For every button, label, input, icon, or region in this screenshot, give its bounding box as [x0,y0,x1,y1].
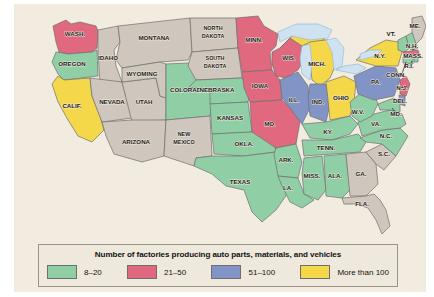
label-arkansas: ARK. [278,156,293,163]
label-vermont: VT. [387,30,396,37]
label-nebraska: NEBRASKA [199,86,235,93]
label-new-mexico-2: MEXICO [173,139,194,145]
label-nevada: NEVADA [99,98,125,105]
map-legend: Number of factories producing auto parts… [38,244,398,287]
label-texas: TEXAS [230,178,251,185]
state-washington[interactable] [53,20,98,54]
label-wyoming: WYOMING [127,70,158,77]
label-florida: FLA. [355,200,369,207]
label-missouri: MO. [264,120,276,127]
label-maryland: MD. [390,110,402,117]
label-arizona: ARIZONA [122,138,151,145]
label-connecticut: CONN. [386,71,406,78]
label-north-dakota-2: DAKOTA [202,33,225,39]
legend-swatch-0 [47,265,77,279]
label-kansas: KANSAS [217,114,243,121]
label-new-hampshire: N.H. [406,42,419,49]
legend-title: Number of factories producing auto parts… [39,250,397,259]
label-oregon: OREGON [58,60,86,67]
label-oklahoma: OKLA. [234,140,254,147]
label-utah: UTAH [136,98,153,105]
label-georgia: GA. [355,170,366,177]
label-west-virginia: W.V. [352,108,365,115]
label-new-jersey: N.J. [396,84,408,91]
legend-label-0: 8–20 [84,268,102,277]
label-montana: MONTANA [138,34,170,41]
label-delaware: DEL. [393,97,407,104]
map-figure: WASH. OREGON CALIF. IDAHO NEVADA MONTANA… [0,0,434,297]
label-north-carolina: N.C. [380,132,393,139]
label-wisconsin: WIS. [282,54,296,61]
legend-swatch-3 [300,265,330,279]
legend-label-3: More than 100 [337,268,389,277]
label-south-dakota-1: SOUTH [206,55,225,61]
label-california: CALIF. [62,102,82,109]
label-illinois: ILL. [289,96,300,103]
label-louisiana: LA. [283,184,293,191]
label-ohio: OHIO [333,94,349,101]
label-iowa: IOWA [252,82,269,89]
label-michigan: MICH. [308,60,326,67]
label-maine: ME. [409,22,420,29]
label-new-york: N.Y. [374,52,386,59]
label-washington: WASH. [65,30,86,37]
legend-items: 8–20 21–50 51–100 More than 100 [39,265,397,279]
label-tennessee: TENN. [317,144,336,151]
legend-label-1: 21–50 [164,268,186,277]
legend-label-2: 51–100 [248,268,275,277]
label-indiana: IND. [312,98,325,105]
label-massachusetts: MASS. [403,52,423,59]
label-virginia: VA. [371,120,381,127]
legend-item-0[interactable]: 8–20 [47,265,102,279]
label-pennsylvania: PA. [371,78,381,85]
label-minnesota: MINN. [245,36,263,43]
label-south-dakota-2: DAKOTA [204,63,227,69]
label-idaho: IDAHO [98,54,118,61]
us-choropleth-map[interactable]: WASH. OREGON CALIF. IDAHO NEVADA MONTANA… [14,4,426,244]
state-montana[interactable] [116,18,192,68]
label-north-dakota-1: NORTH [203,25,222,31]
legend-swatch-2 [211,265,241,279]
label-south-carolina: S.C. [378,150,390,157]
label-new-mexico-1: NEW [178,131,191,137]
label-kentucky: KY. [323,128,333,135]
legend-item-2[interactable]: 51–100 [211,265,275,279]
label-mississippi: MISS. [304,172,321,179]
legend-item-3[interactable]: More than 100 [300,265,389,279]
legend-item-1[interactable]: 21–50 [127,265,186,279]
legend-swatch-1 [127,265,157,279]
label-alabama: ALA. [328,172,343,179]
